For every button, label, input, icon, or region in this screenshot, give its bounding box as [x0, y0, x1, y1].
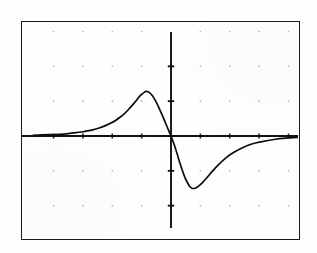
grid-dot — [200, 65, 202, 67]
grid-dot — [53, 205, 55, 207]
grid-dot — [82, 65, 84, 67]
grid-dot — [111, 205, 113, 207]
grid-dot — [229, 205, 231, 207]
grid-dot — [53, 170, 55, 172]
grid-dot — [200, 170, 202, 172]
grid-dot — [141, 100, 143, 102]
grid-dot — [288, 100, 290, 102]
grid-dot — [111, 170, 113, 172]
grid-dot — [229, 31, 231, 33]
grid-dot — [53, 65, 55, 67]
grid-dot — [141, 205, 143, 207]
grid-dot — [111, 31, 113, 33]
grid-dot — [141, 170, 143, 172]
grid-dot — [141, 31, 143, 33]
grid-dot — [288, 205, 290, 207]
function-curve — [33, 91, 298, 188]
grid-dot — [82, 31, 84, 33]
grid-dot — [258, 205, 260, 207]
grid-dot — [200, 205, 202, 207]
grid-dot — [229, 100, 231, 102]
grid-dot — [82, 170, 84, 172]
grid-dot — [53, 31, 55, 33]
grid-dot — [258, 100, 260, 102]
grid-dot — [258, 170, 260, 172]
grid-dot — [53, 100, 55, 102]
grid-dot — [288, 31, 290, 33]
grid-dot — [111, 100, 113, 102]
grid-dot — [229, 170, 231, 172]
grid-dot — [141, 65, 143, 67]
grid-dot — [200, 31, 202, 33]
calculator-screen[interactable] — [21, 21, 300, 240]
grid-dot — [200, 100, 202, 102]
grid-dot — [82, 100, 84, 102]
plot-canvas[interactable] — [22, 22, 298, 238]
grid-dot — [288, 170, 290, 172]
grid-dot — [111, 65, 113, 67]
grid-dot — [288, 65, 290, 67]
grid-dot — [258, 31, 260, 33]
grid-dot — [229, 65, 231, 67]
screenshot-root — [0, 0, 317, 253]
grid-dot — [82, 205, 84, 207]
grid-dot — [258, 65, 260, 67]
